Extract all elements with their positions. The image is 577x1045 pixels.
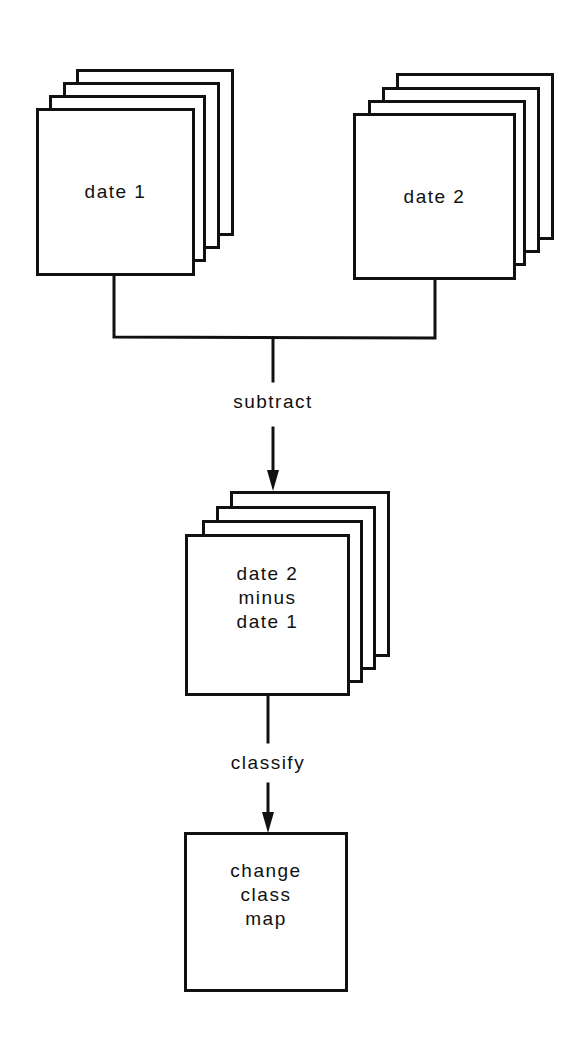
date2-label: date 2	[404, 185, 466, 209]
result-label-line1: change	[230, 859, 301, 883]
subtract-arrowhead-icon	[267, 470, 279, 491]
difference-layer-front: date 2 minus date 1	[185, 534, 350, 696]
difference-label-line3: date 1	[237, 610, 299, 634]
date1-layer-front: date 1	[36, 108, 195, 276]
merge-bracket-line	[114, 275, 435, 338]
classify-arrowhead-icon	[262, 812, 274, 833]
difference-label-line2: minus	[238, 586, 296, 610]
date1-label: date 1	[85, 180, 147, 204]
result-label-line3: map	[245, 907, 286, 931]
date2-layer-front: date 2	[353, 113, 516, 280]
change-class-map-box: change class map	[184, 832, 348, 992]
difference-label-line1: date 2	[237, 562, 299, 586]
result-label-line2: class	[241, 883, 292, 907]
classify-label: classify	[210, 751, 326, 775]
change-detection-diagram: date 1 date 2 subtract date 2 minus date…	[0, 0, 577, 1045]
subtract-label: subtract	[210, 390, 336, 414]
